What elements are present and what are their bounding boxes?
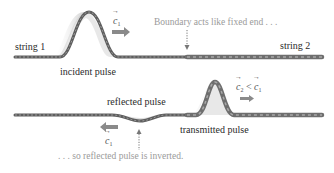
boundary-annotation: Boundary acts like fixed end . . . — [154, 18, 277, 28]
incident-pulse-motion-blur — [52, 12, 116, 57]
string-1-reflected — [15, 115, 187, 121]
incident-velocity-arrow — [112, 27, 130, 37]
string-1-label: string 1 — [15, 42, 45, 52]
incident-pulse-label: incident pulse — [60, 67, 116, 77]
boundary-marker-arrow-top — [185, 30, 190, 50]
inversion-annotation: . . . so reflected pulse is inverted. — [58, 152, 183, 162]
transmitted-pulse-label: transmitted pulse — [180, 125, 249, 135]
string-2-label: string 2 — [280, 41, 310, 51]
velocity-comparison-label: c2 < c1 — [236, 82, 262, 93]
reflected-pulse-label: reflected pulse — [107, 97, 166, 107]
incident-velocity-label: c1 — [113, 16, 120, 27]
boundary-marker-arrow-bottom — [137, 129, 142, 150]
transmitted-velocity-arrow — [240, 95, 254, 102]
reflected-velocity-label: c1 — [105, 136, 112, 147]
